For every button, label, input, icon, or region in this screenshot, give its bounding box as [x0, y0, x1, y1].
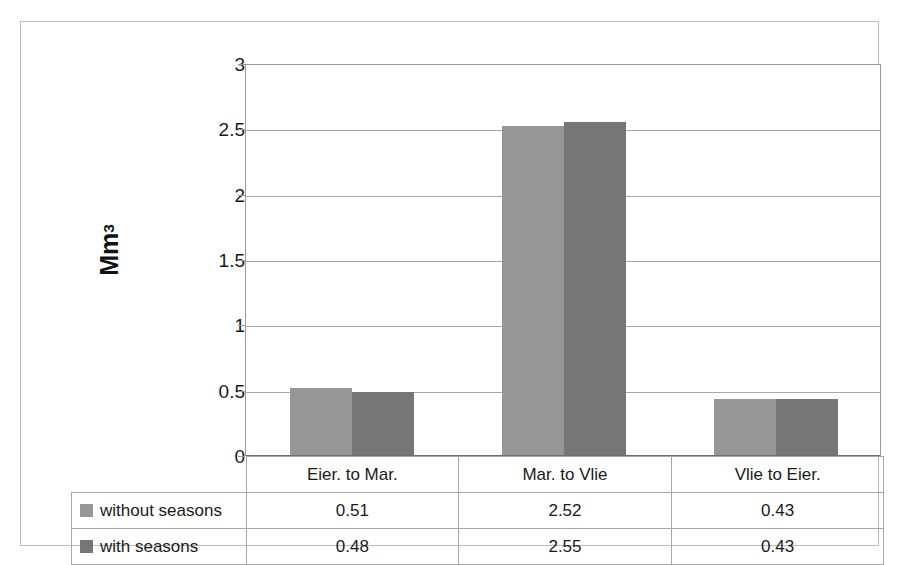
chart-frame: Mm3 00.511.522.53 Eier. to Mar.Mar. to V…	[20, 21, 879, 546]
value-cell: 0.48	[246, 529, 459, 565]
table-row: with seasons0.482.550.43	[72, 529, 884, 565]
bar[interactable]	[776, 399, 838, 455]
y-tick-label: 1	[187, 316, 245, 335]
legend-swatch-icon	[80, 504, 93, 517]
y-axis-title: Mm3	[49, 190, 169, 310]
bar-group	[458, 65, 670, 455]
category-header-cell: Eier. to Mar.	[246, 457, 459, 493]
legend-label: without seasons	[100, 501, 222, 520]
y-tick-mark	[238, 391, 245, 392]
data-table-body: Eier. to Mar.Mar. to VlieVlie to Eier.wi…	[72, 457, 884, 565]
bar[interactable]	[502, 126, 564, 455]
data-table: Eier. to Mar.Mar. to VlieVlie to Eier.wi…	[71, 456, 884, 565]
value-cell: 0.43	[671, 529, 884, 565]
legend-cell[interactable]: without seasons	[72, 493, 247, 529]
bar[interactable]	[564, 122, 626, 455]
y-tick-mark	[238, 260, 245, 261]
y-tick-mark	[238, 195, 245, 196]
value-cell: 0.51	[246, 493, 459, 529]
table-header-row: Eier. to Mar.Mar. to VlieVlie to Eier.	[72, 457, 884, 493]
bar[interactable]	[714, 399, 776, 455]
plot-area	[245, 64, 881, 456]
category-header-cell: Mar. to Vlie	[459, 457, 672, 493]
y-tick-label: 2.5	[187, 120, 245, 139]
y-axis-scale: 00.511.522.53	[171, 64, 245, 456]
y-tick-label: 2	[187, 185, 245, 204]
value-cell: 0.43	[671, 493, 884, 529]
y-tick-label: 3	[187, 55, 245, 74]
bar[interactable]	[290, 388, 352, 455]
legend-swatch-icon	[80, 540, 93, 553]
y-axis-title-text: Mm	[95, 233, 124, 276]
bar-group	[246, 65, 458, 455]
bar[interactable]	[352, 392, 414, 455]
y-tick-mark	[238, 129, 245, 130]
table-row: without seasons0.512.520.43	[72, 493, 884, 529]
y-tick-mark	[238, 325, 245, 326]
bar-group	[670, 65, 882, 455]
y-tick-label: 1.5	[187, 251, 245, 270]
y-tick-label: 0.5	[187, 381, 245, 400]
y-tick-mark	[238, 64, 245, 65]
legend-label: with seasons	[100, 537, 198, 556]
table-corner-cell	[72, 457, 247, 493]
category-header-cell: Vlie to Eier.	[671, 457, 884, 493]
value-cell: 2.52	[459, 493, 672, 529]
legend-cell[interactable]: with seasons	[72, 529, 247, 565]
value-cell: 2.55	[459, 529, 672, 565]
